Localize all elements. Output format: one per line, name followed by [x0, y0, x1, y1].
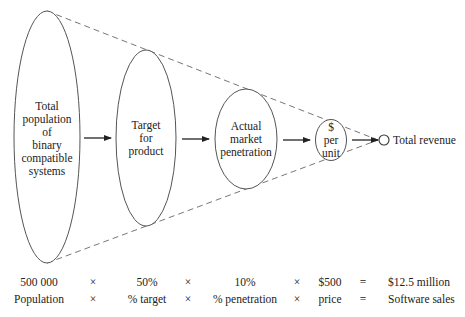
- sales-label: Software sales: [388, 293, 455, 305]
- total-revenue-label: Total revenue: [393, 134, 456, 146]
- equals-sign: =: [360, 293, 367, 305]
- svg-text:Target: Target: [132, 119, 162, 132]
- svg-text:compatible: compatible: [21, 152, 72, 165]
- svg-text:systems: systems: [29, 165, 66, 178]
- total-revenue-circle: [379, 135, 389, 145]
- equals-sign: =: [360, 276, 367, 288]
- multiply-sign: ×: [185, 276, 192, 288]
- multiply-sign: ×: [294, 276, 301, 288]
- svg-text:of: of: [42, 126, 52, 138]
- svg-text:product: product: [128, 145, 164, 158]
- price-value: $500: [319, 276, 342, 288]
- multiply-sign: ×: [294, 293, 301, 305]
- sales-value: $12.5 million: [388, 276, 450, 288]
- price-label: price: [319, 293, 342, 306]
- svg-text:$: $: [328, 121, 334, 133]
- svg-text:penetration: penetration: [220, 146, 272, 159]
- equation-labels-row: Population × % target × % penetration × …: [14, 293, 455, 306]
- equation-values-row: 500 000 × 50% × 10% × $500 = $12.5 milli…: [20, 276, 450, 288]
- svg-text:binary: binary: [32, 139, 62, 152]
- market-funnel-diagram: Total population of binary compatible sy…: [0, 0, 465, 317]
- multiply-sign: ×: [185, 293, 192, 305]
- svg-text:for: for: [139, 132, 153, 144]
- svg-text:unit: unit: [322, 147, 341, 159]
- population-label: Population: [14, 293, 64, 306]
- penetration-label: % penetration: [213, 293, 277, 306]
- multiply-sign: ×: [90, 293, 97, 305]
- multiply-sign: ×: [90, 276, 97, 288]
- svg-text:Actual: Actual: [231, 120, 262, 132]
- target-value: 50%: [136, 276, 158, 288]
- svg-text:per: per: [324, 134, 339, 147]
- svg-text:population: population: [22, 113, 71, 126]
- penetration-value: 10%: [234, 276, 256, 288]
- population-value: 500 000: [20, 276, 58, 288]
- target-label: % target: [128, 293, 167, 306]
- svg-text:Total: Total: [35, 100, 58, 112]
- svg-text:market: market: [230, 133, 263, 145]
